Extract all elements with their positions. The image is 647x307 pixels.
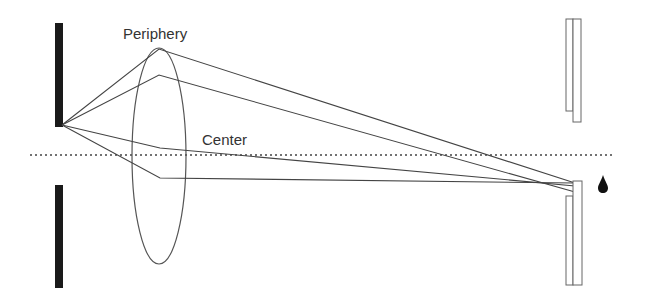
- drop-icon: [598, 175, 608, 193]
- center-ray-lower: [62, 125, 575, 183]
- aperture-top-bar: [55, 23, 63, 127]
- label-periphery: Periphery: [123, 25, 187, 42]
- periphery-ray-inner: [62, 75, 575, 192]
- optics-diagram: [0, 0, 647, 307]
- aperture-bottom-bar: [55, 185, 63, 288]
- center-ray-upper: [62, 125, 575, 186]
- label-center: Center: [202, 131, 247, 148]
- image-plane-upper-left: [566, 19, 573, 111]
- image-plane-upper-right: [573, 19, 581, 122]
- image-plane-lower-right: [573, 181, 582, 285]
- image-plane-lower-left: [566, 196, 573, 285]
